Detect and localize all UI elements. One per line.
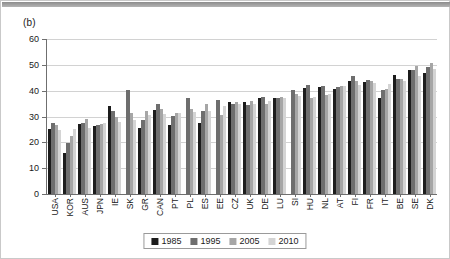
x-tick-mark-at xyxy=(340,194,341,197)
bar-group-uk xyxy=(242,39,257,194)
bar-fr-2010 xyxy=(373,83,376,194)
bar-nl-2010 xyxy=(328,94,331,194)
x-tick-mark-de xyxy=(265,194,266,197)
bar-group-jpn xyxy=(92,39,107,194)
bar-dk-2010 xyxy=(433,69,436,194)
y-tick-mark-60 xyxy=(42,39,46,40)
x-tick-at: AT xyxy=(332,197,347,231)
y-tick-mark-20 xyxy=(42,142,46,143)
x-axis-labels: USAKORAUSJPNIESKGRCANPTPLESEECZUKDELUSIH… xyxy=(47,197,437,231)
legend-item-2010[interactable]: 2010 xyxy=(269,236,299,246)
top-band xyxy=(2,2,450,7)
bar-fi-2010 xyxy=(358,85,361,194)
x-tick-label-nl: NL xyxy=(320,198,330,209)
x-tick-label-pt: PT xyxy=(170,198,180,209)
x-tick-se: SE xyxy=(407,197,422,231)
legend-swatch-1995 xyxy=(190,238,197,245)
chart-legend: 1985199520052010 xyxy=(143,233,306,249)
x-tick-label-si: SI xyxy=(290,198,300,206)
x-tick-mark-kor xyxy=(70,194,71,197)
y-tick-label-0: 0 xyxy=(5,189,39,199)
bar-pl-2010 xyxy=(193,112,196,194)
x-tick-mark-jpn xyxy=(100,194,101,197)
y-tick-label-60: 60 xyxy=(5,34,39,44)
figure-panel-b: (b) 0102030405060 USAKORAUSJPNIESKGRCANP… xyxy=(0,0,450,259)
x-tick-mark-pt xyxy=(175,194,176,197)
legend-item-1995[interactable]: 1995 xyxy=(190,236,220,246)
x-tick-pt: PT xyxy=(167,197,182,231)
x-tick-it: IT xyxy=(377,197,392,231)
x-tick-label-de: DE xyxy=(260,198,270,210)
x-tick-label-fr: FR xyxy=(365,198,375,209)
bar-se-2010 xyxy=(418,76,421,194)
x-tick-mark-es xyxy=(205,194,206,197)
x-tick-cz: CZ xyxy=(227,197,242,231)
legend-item-1985[interactable]: 1985 xyxy=(151,236,181,246)
x-tick-ee: EE xyxy=(212,197,227,231)
x-tick-mark-ie xyxy=(115,194,116,197)
y-tick-label-10: 10 xyxy=(5,163,39,173)
y-tick-mark-30 xyxy=(42,117,46,118)
x-tick-label-can: CAN xyxy=(155,198,165,216)
legend-item-2005[interactable]: 2005 xyxy=(230,236,260,246)
bar-groups xyxy=(47,39,437,194)
x-tick-mark-aus xyxy=(85,194,86,197)
bar-group-se xyxy=(407,39,422,194)
bar-cz-2010 xyxy=(238,104,241,194)
legend-label-1995: 1995 xyxy=(200,236,220,246)
y-tick-mark-40 xyxy=(42,91,46,92)
x-tick-mark-uk xyxy=(250,194,251,197)
x-tick-fr: FR xyxy=(362,197,377,231)
x-tick-mark-be xyxy=(400,194,401,197)
bar-group-it xyxy=(377,39,392,194)
x-tick-mark-fr xyxy=(370,194,371,197)
legend-swatch-2005 xyxy=(230,238,237,245)
y-tick-mark-50 xyxy=(42,65,46,66)
x-tick-mark-nl xyxy=(325,194,326,197)
x-tick-es: ES xyxy=(197,197,212,231)
y-tick-label-30: 30 xyxy=(5,112,39,122)
x-tick-fi: FI xyxy=(347,197,362,231)
x-tick-mark-se xyxy=(415,194,416,197)
x-tick-be: BE xyxy=(392,197,407,231)
gridline-0 xyxy=(47,194,437,195)
x-tick-hu: HU xyxy=(302,197,317,231)
bar-group-at xyxy=(332,39,347,194)
x-tick-mark-pl xyxy=(190,194,191,197)
bar-aus-2010 xyxy=(88,128,91,194)
y-tick-mark-10 xyxy=(42,168,46,169)
panel-label: (b) xyxy=(23,17,36,28)
legend-label-2005: 2005 xyxy=(240,236,260,246)
x-tick-label-aus: AUS xyxy=(80,198,90,215)
y-tick-label-40: 40 xyxy=(5,86,39,96)
x-tick-kor: KOR xyxy=(62,197,77,231)
bar-group-dk xyxy=(422,39,437,194)
bar-usa-2010 xyxy=(58,130,61,194)
bar-group-pl xyxy=(182,39,197,194)
y-tick-label-20: 20 xyxy=(5,137,39,147)
bar-group-ee xyxy=(212,39,227,194)
x-tick-label-usa: USA xyxy=(50,198,60,215)
x-tick-mark-hu xyxy=(310,194,311,197)
x-tick-nl: NL xyxy=(317,197,332,231)
bar-group-usa xyxy=(47,39,62,194)
x-tick-mark-can xyxy=(160,194,161,197)
y-axis-labels: 0102030405060 xyxy=(1,39,39,195)
x-tick-dk: DK xyxy=(422,197,437,231)
bar-group-nl xyxy=(317,39,332,194)
x-tick-uk: UK xyxy=(242,197,257,231)
bar-group-cz xyxy=(227,39,242,194)
bar-group-si xyxy=(287,39,302,194)
x-tick-can: CAN xyxy=(152,197,167,231)
x-tick-mark-lu xyxy=(280,194,281,197)
bar-uk-2010 xyxy=(253,104,256,194)
bar-group-es xyxy=(197,39,212,194)
bar-si-2010 xyxy=(298,96,301,194)
x-tick-mark-cz xyxy=(235,194,236,197)
bar-group-hu xyxy=(302,39,317,194)
bar-group-fi xyxy=(347,39,362,194)
x-tick-mark-si xyxy=(295,194,296,197)
x-tick-label-lu: LU xyxy=(275,198,285,209)
x-tick-label-pl: PL xyxy=(185,198,195,208)
y-tick-mark-0 xyxy=(42,194,46,195)
